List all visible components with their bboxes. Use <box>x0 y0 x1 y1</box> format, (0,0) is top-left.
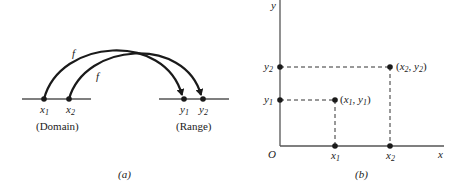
range-point-y2 <box>200 96 206 102</box>
domain-point-x2 <box>66 96 72 102</box>
point-x1-y1 <box>332 97 338 103</box>
caption-a: (a) <box>118 168 131 181</box>
panel-b: y x O y2 y1 x1 x2 (x1, y1) (x2, y2) (b) <box>263 0 444 181</box>
function-mapping-figure: f f x1 x2 y1 y2 (Domain) (Range) (a) y x… <box>0 0 465 188</box>
point-label-x1-y1: (x1, y1) <box>340 93 371 107</box>
range-label: (Range) <box>176 120 212 133</box>
range-point-y1 <box>181 96 187 102</box>
origin-label: O <box>268 148 276 160</box>
y-tick-y2: y2 <box>263 60 273 74</box>
label-x2: x2 <box>65 103 75 117</box>
caption-b: (b) <box>355 168 368 181</box>
point-x2-y2 <box>387 64 393 70</box>
label-x1: x1 <box>39 103 49 117</box>
point-label-x2-y2: (x2, y2) <box>396 60 427 74</box>
y-axis-label: y <box>270 0 276 11</box>
x-tick-x2: x2 <box>385 149 395 163</box>
y-tick-y1: y1 <box>263 93 273 107</box>
tick-dot-x2 <box>387 143 393 149</box>
function-label-2: f <box>96 70 101 82</box>
panel-a: f f x1 x2 y1 y2 (Domain) (Range) (a) <box>22 47 229 181</box>
label-y1: y1 <box>179 103 189 117</box>
tick-dot-y1 <box>277 97 283 103</box>
tick-dot-y2 <box>277 64 283 70</box>
x-axis-label: x <box>437 148 443 160</box>
domain-point-x1 <box>41 96 47 102</box>
domain-label: (Domain) <box>36 120 79 133</box>
x-tick-x1: x1 <box>330 149 340 163</box>
label-y2: y2 <box>198 103 208 117</box>
function-label-1: f <box>72 47 77 59</box>
tick-dot-x1 <box>332 143 338 149</box>
